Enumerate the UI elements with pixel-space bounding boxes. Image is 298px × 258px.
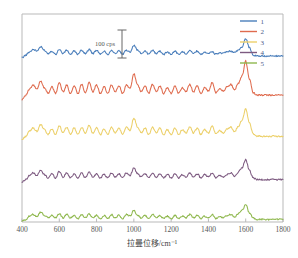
legend: 12345 xyxy=(240,18,265,68)
x-tick-label-600: 600 xyxy=(54,225,66,234)
axes-frame xyxy=(22,14,283,222)
x-tick-label-1600: 1600 xyxy=(238,225,253,234)
spectrum-trace-3 xyxy=(22,109,283,140)
x-tick-label-800: 800 xyxy=(91,225,103,234)
spectrum-trace-5 xyxy=(22,205,283,222)
x-tick-label-1200: 1200 xyxy=(164,225,179,234)
legend-label-4: 4 xyxy=(261,49,265,57)
x-axis-title: 拉曼位移/cm⁻¹ xyxy=(127,238,178,248)
legend-label-3: 3 xyxy=(261,39,265,47)
spectra-traces xyxy=(22,39,283,221)
scale-bar-label: 100 cps xyxy=(95,40,116,47)
legend-label-2: 2 xyxy=(261,28,265,36)
legend-label-5: 5 xyxy=(261,60,265,68)
spectrum-trace-4 xyxy=(22,159,283,182)
x-axis-tick-labels: 40060080010001200140016001800 xyxy=(16,225,290,234)
x-tick-label-1000: 1000 xyxy=(126,225,141,234)
raman-spectra-figure: 40060080010001200140016001800 拉曼位移/cm⁻¹ … xyxy=(0,0,298,258)
legend-label-1: 1 xyxy=(261,18,265,26)
x-axis-ticks xyxy=(22,219,283,223)
x-tick-label-400: 400 xyxy=(16,225,28,234)
x-tick-label-1400: 1400 xyxy=(201,225,216,234)
x-tick-label-1800: 1800 xyxy=(276,225,291,234)
spectrum-trace-2 xyxy=(22,60,283,100)
plot-canvas: 40060080010001200140016001800 拉曼位移/cm⁻¹ … xyxy=(0,0,298,258)
